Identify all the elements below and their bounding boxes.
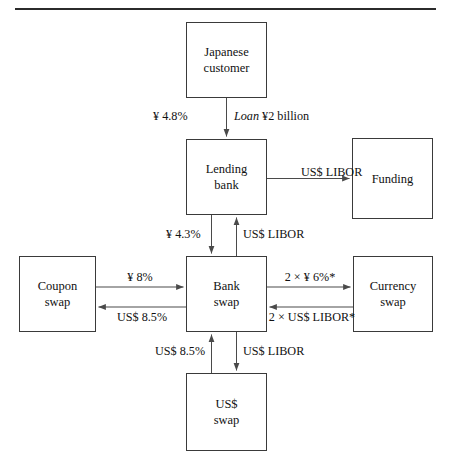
edge-label-loan-amount: Loan ¥2 billion	[234, 110, 309, 123]
node-bank-swap[interactable]: Bank swap	[186, 256, 267, 332]
node-currency-swap-line2: swap	[380, 294, 406, 310]
edge-label-usd-libor-bottom: US$ LIBOR	[243, 345, 304, 358]
edge-label-two-times-usd-libor: 2 × US$ LIBOR*	[269, 311, 355, 324]
edge-label-two-times-yen-6: 2 × ¥ 6%*	[285, 271, 336, 284]
edge-label-usd-8-5-bottom: US$ 8.5%	[155, 345, 205, 358]
node-lending-bank-line2: bank	[214, 177, 238, 193]
edge-label-usd-libor-lending: US$ LIBOR	[243, 228, 304, 241]
node-coupon-swap-line1: Coupon	[38, 278, 78, 294]
node-lending-bank-line1: Lending	[206, 161, 248, 177]
node-bank-swap-line1: Bank	[213, 278, 239, 294]
node-funding-line1: Funding	[372, 171, 414, 187]
edge-label-usd-libor-funding: US$ LIBOR	[301, 166, 362, 179]
swap-flow-diagram: Japanese customer Lending bank Funding C…	[0, 0, 449, 465]
node-funding[interactable]: Funding	[352, 138, 433, 219]
node-currency-swap[interactable]: Currency swap	[353, 256, 433, 332]
node-usd-swap-line1: US$	[215, 396, 237, 412]
edge-label-loan-word: Loan	[234, 109, 259, 123]
node-japanese-customer-line1: Japanese	[204, 44, 248, 60]
node-lending-bank[interactable]: Lending bank	[186, 139, 267, 215]
edge-label-usd-8-5-coupon: US$ 8.5%	[117, 311, 167, 324]
edge-label-yen-4-3: ¥ 4.3%	[166, 228, 201, 241]
edge-label-yen-4-8: ¥ 4.8%	[153, 110, 188, 123]
node-usd-swap[interactable]: US$ swap	[186, 373, 267, 451]
node-coupon-swap[interactable]: Coupon swap	[19, 256, 96, 332]
edge-label-yen-8: ¥ 8%	[127, 271, 152, 284]
node-japanese-customer-line2: customer	[204, 60, 250, 76]
node-japanese-customer[interactable]: Japanese customer	[186, 22, 267, 98]
node-usd-swap-line2: swap	[214, 412, 240, 428]
node-coupon-swap-line2: swap	[45, 294, 71, 310]
edge-label-loan-value: ¥2 billion	[262, 109, 309, 123]
node-bank-swap-line2: swap	[214, 294, 240, 310]
node-currency-swap-line1: Currency	[370, 278, 417, 294]
